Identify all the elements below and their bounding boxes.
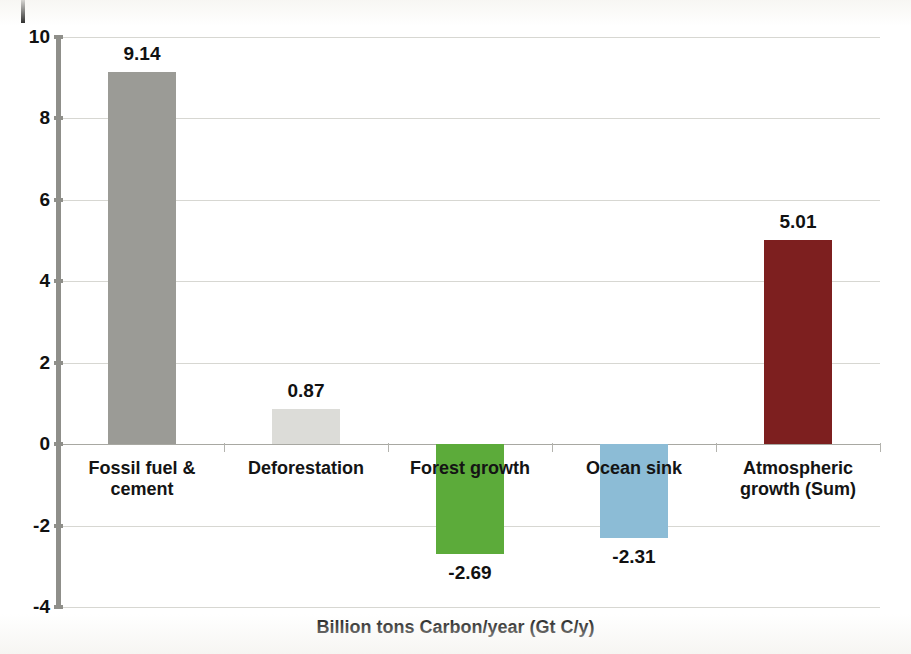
y-axis-label-10: 10 <box>6 27 50 46</box>
y-axis-label-6: 6 <box>6 190 50 209</box>
y-axis-tick-labels: 1086420-2-4 <box>0 0 50 654</box>
gridline-4 <box>60 281 880 282</box>
bar-atmospheric-growth-sum[interactable] <box>764 240 832 444</box>
y-axis-label-neg2: -2 <box>6 516 50 535</box>
x-axis-category-label-4: Ocean sink <box>552 458 716 479</box>
carbon-budget-bar-chart: 1086420-2-4 Billion tons Carbon/year (Gt… <box>0 0 911 654</box>
bar-atmospheric-growth-sum-value-label: 5.01 <box>738 212 858 231</box>
bar-forest-growth-value-label: -2.69 <box>410 563 530 582</box>
x-axis-tick-1 <box>224 443 225 452</box>
y-tick-0 <box>54 442 63 446</box>
y-tick-6 <box>54 198 63 202</box>
x-axis-title: Billion tons Carbon/year (Gt C/y) <box>0 617 911 638</box>
bar-fossil-fuel-and-cement[interactable] <box>108 72 176 444</box>
bar-ocean-sink-value-label: -2.31 <box>574 547 694 566</box>
gridline-6 <box>60 200 880 201</box>
x-axis-category-label-2: Deforestation <box>224 458 388 479</box>
y-tick-2 <box>54 361 63 365</box>
y-axis-label-neg4: -4 <box>6 597 50 616</box>
gridline-neg4 <box>60 607 880 608</box>
x-axis-tick-3 <box>552 443 553 452</box>
y-axis-label-4: 4 <box>6 271 50 290</box>
gridline-10 <box>60 37 880 38</box>
bar-fossil-fuel-and-cement-value-label: 9.14 <box>82 44 202 63</box>
x-axis-tick-end <box>880 443 881 452</box>
bar-deforestation[interactable] <box>272 409 340 444</box>
x-axis-tick-4 <box>716 443 717 452</box>
bar-deforestation-value-label: 0.87 <box>246 381 366 400</box>
y-axis-label-8: 8 <box>6 108 50 127</box>
y-tick-8 <box>54 116 63 120</box>
y-tick-neg4 <box>54 605 63 609</box>
x-axis-tick-2 <box>388 443 389 452</box>
y-axis-label-0: 0 <box>6 434 50 453</box>
x-axis-category-label-5: Atmospheric growth (Sum) <box>716 458 880 500</box>
x-axis-category-label-3: Forest growth <box>388 458 552 479</box>
x-axis-category-label-1: Fossil fuel & cement <box>60 458 224 500</box>
y-tick-neg2 <box>54 524 63 528</box>
clipped-caption-text <box>62 0 762 7</box>
y-tick-10 <box>54 35 63 39</box>
gridline-2 <box>60 363 880 364</box>
y-tick-4 <box>54 279 63 283</box>
gridline-8 <box>60 118 880 119</box>
y-axis-label-2: 2 <box>6 353 50 372</box>
